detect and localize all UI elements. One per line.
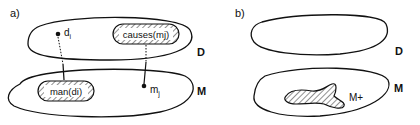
set-d-label-b: D	[395, 45, 403, 57]
m-plus-label: M+	[349, 92, 363, 103]
point-di-label: di	[64, 27, 72, 40]
panel-b-label: b)	[235, 7, 245, 19]
set-d-label: D	[197, 46, 205, 58]
diagram-canvas: a) D causes(mj) di M man(di) mj b) D	[0, 0, 420, 125]
panel-a: a) D causes(mj) di M man(di) mj	[8, 7, 206, 117]
man-label: man(di)	[50, 86, 82, 97]
set-m-label: M	[197, 85, 206, 97]
point-mj	[142, 84, 147, 89]
link-mj-solid	[144, 62, 146, 84]
point-di	[56, 32, 61, 37]
m-plus-region	[285, 84, 345, 108]
point-mj-label: mj	[150, 84, 160, 98]
causes-label: causes(mj)	[123, 29, 169, 40]
panel-a-label: a)	[10, 7, 20, 19]
set-m-ellipse	[8, 69, 193, 117]
set-d-ellipse-b	[251, 15, 387, 55]
set-m-label-b: M	[394, 82, 403, 94]
panel-b: b) D M M+	[235, 7, 403, 116]
link-di-dotted	[58, 37, 63, 64]
